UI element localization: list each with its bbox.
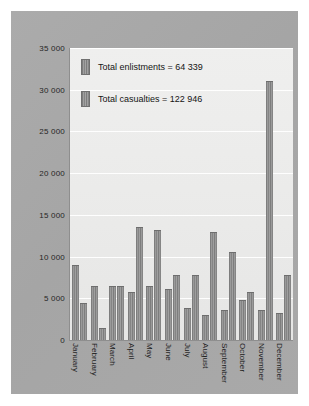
x-axis-tick-label: May <box>145 343 154 358</box>
bar <box>276 313 283 340</box>
bar <box>80 303 87 340</box>
bar <box>91 286 98 340</box>
y-axis-tick-label: 15 000 <box>39 210 65 219</box>
legend-swatch-enlistments-icon <box>81 59 90 75</box>
bar-group <box>276 48 291 340</box>
x-axis-tick-label: December <box>275 343 284 381</box>
x-axis-tick-label: November <box>257 343 266 381</box>
x-axis-tick-label: August <box>201 343 210 369</box>
bar <box>221 310 228 340</box>
x-axis-tick-label: October <box>238 343 247 372</box>
bar <box>117 286 124 340</box>
legend-item: Total casualties = 122 946 <box>81 91 261 107</box>
x-axis-tick-label: July <box>183 343 192 358</box>
bar <box>266 81 273 340</box>
x-axis-tick-label: February <box>90 343 99 376</box>
y-axis-tick-label: 10 000 <box>39 252 65 261</box>
y-axis-tick-label: 25 000 <box>39 127 65 136</box>
bar <box>258 310 265 340</box>
bar <box>128 292 135 340</box>
x-axis-tick-label: March <box>108 343 117 366</box>
bar <box>184 308 191 340</box>
y-axis-tick-label: 0 <box>60 336 65 345</box>
x-axis-tick-label: June <box>164 343 173 361</box>
bar <box>146 286 153 340</box>
x-axis-tick-label: January <box>71 343 80 372</box>
y-axis-tick-label: 35 000 <box>39 44 65 53</box>
y-axis-tick-label: 5 000 <box>44 294 65 303</box>
x-axis-tick-label: September <box>220 343 229 383</box>
bar <box>202 315 209 340</box>
bar <box>229 252 236 340</box>
x-axis: JanuaryFebruaryMarchAprilMayJuneJulyAugu… <box>70 343 293 405</box>
bar <box>284 275 291 340</box>
bar <box>99 328 106 340</box>
bar <box>173 275 180 340</box>
bar <box>192 275 199 340</box>
bar <box>154 230 161 340</box>
x-axis-tick-label: April <box>127 343 136 360</box>
bar <box>210 232 217 340</box>
y-axis-tick-label: 20 000 <box>39 169 65 178</box>
bar <box>239 300 246 340</box>
bar <box>72 265 79 340</box>
chart-legend: Total enlistments = 64 339 Total casualt… <box>81 59 261 123</box>
y-axis-tick-label: 30 000 <box>39 85 65 94</box>
legend-swatch-casualties-icon <box>81 91 90 107</box>
legend-label-casualties: Total casualties = 122 946 <box>98 94 202 104</box>
chart-panel: 35 00030 00025 00020 00015 00010 0005 00… <box>11 11 298 394</box>
chart-page: 35 00030 00025 00020 00015 00010 0005 00… <box>0 0 309 406</box>
legend-item: Total enlistments = 64 339 <box>81 59 261 75</box>
bar <box>109 286 116 340</box>
y-axis: 35 00030 00025 00020 00015 00010 0005 00… <box>22 48 69 342</box>
legend-label-enlistments: Total enlistments = 64 339 <box>98 62 203 72</box>
bar <box>165 289 172 340</box>
bar <box>136 227 143 340</box>
bar <box>247 292 254 340</box>
